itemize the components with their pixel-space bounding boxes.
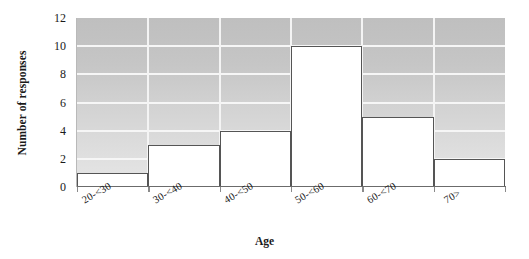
y-tick-label: 10 <box>36 40 66 52</box>
y-axis-line <box>76 18 77 187</box>
bar-40-lt-50 <box>220 131 291 187</box>
y-tick-label: 4 <box>36 125 66 137</box>
bar-50-lt-60 <box>291 46 362 187</box>
y-axis-tick-labels: 0 2 4 6 8 10 12 <box>36 18 66 187</box>
y-tick-label: 2 <box>36 153 66 165</box>
y-axis-title: Number of responses <box>16 18 28 188</box>
bar-30-lt-40 <box>148 145 219 187</box>
x-tick-mark <box>77 187 78 192</box>
plot-area <box>77 18 505 187</box>
bar-60-lt-70 <box>362 117 433 187</box>
bar-20-lt-30 <box>77 173 148 187</box>
y-tick-label: 6 <box>36 97 66 109</box>
y-tick-label: 12 <box>36 12 66 24</box>
bar-70-plus <box>434 159 505 187</box>
x-tick-mark <box>505 187 506 192</box>
x-axis-title: Age <box>0 235 529 247</box>
histogram-chart: Number of responses 0 2 4 6 8 10 12 <box>0 0 529 259</box>
x-tick-mark <box>434 187 435 192</box>
x-tick-label-70-plus: 70> <box>442 187 462 205</box>
x-tick-mark <box>362 187 363 192</box>
y-tick-label: 8 <box>36 68 66 80</box>
y-tick-label: 0 <box>36 181 66 193</box>
x-tick-mark <box>291 187 292 192</box>
x-tick-mark <box>148 187 149 192</box>
x-tick-mark <box>220 187 221 192</box>
